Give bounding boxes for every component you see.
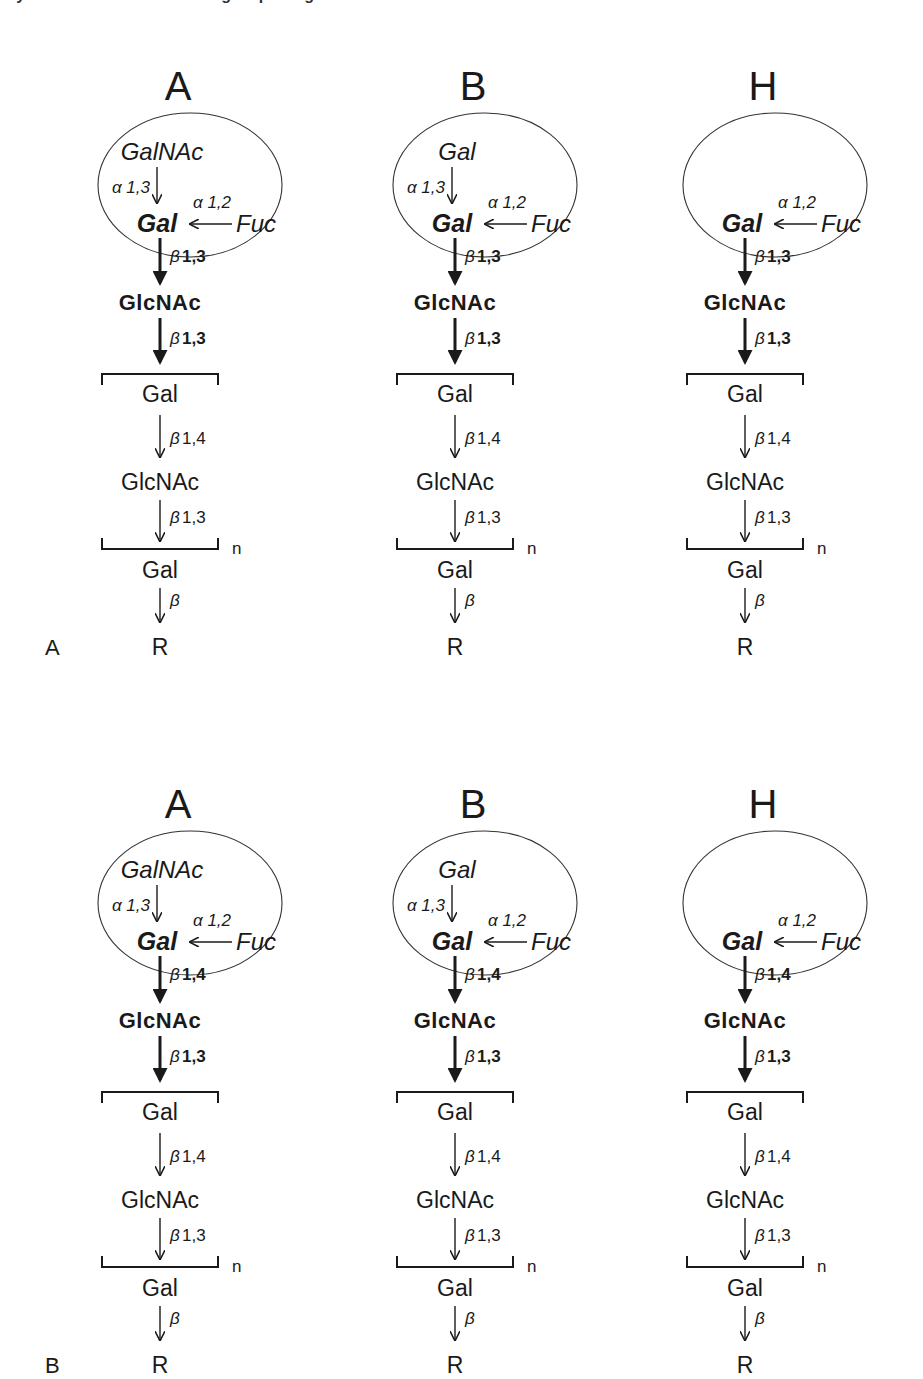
alpha-1-2-label: α 1,2 [488, 911, 527, 930]
reducing-gal: Gal [727, 557, 763, 583]
alpha-1-3-label: α 1,3 [112, 896, 151, 915]
terminal-sugar: Gal [438, 138, 476, 165]
repeat-gal: Gal [142, 381, 178, 407]
glcnac-bold: GlcNAc [704, 290, 786, 315]
aglycone-r: R [737, 634, 754, 660]
structure-a: AGalNAcα 1,3GalFucα 1,2β1,4GlcNAcβ1,3Gal… [98, 782, 282, 1378]
repeat-gal-position: 1,4 [182, 1147, 206, 1166]
repeat-gal-position: 1,4 [182, 429, 206, 448]
core-linkage-position: 1,3 [182, 247, 206, 266]
repeat-gal-beta: β [464, 1147, 475, 1166]
blood-group-header: B [460, 64, 487, 108]
structure-h: HGalFucα 1,2β1,4GlcNAcβ1,3Galβ1,4GlcNAcβ… [683, 782, 867, 1378]
repeat-count-n: n [232, 539, 241, 558]
repeat-glcnac-position: 1,3 [477, 508, 501, 527]
repeat-glcnac: GlcNAc [121, 469, 199, 495]
reducing-gal: Gal [142, 1275, 178, 1301]
alpha-1-3-label: α 1,3 [407, 178, 446, 197]
panel-label: B [45, 1353, 60, 1378]
core-gal: Gal [432, 927, 473, 955]
core-linkage-beta: β [754, 965, 765, 984]
repeat-glcnac-beta: β [754, 1226, 765, 1245]
glcnac-linkage-position: 1,3 [182, 329, 206, 348]
structure-h: HGalFucα 1,2β1,3GlcNAcβ1,3Galβ1,4GlcNAcβ… [683, 64, 867, 660]
repeat-glcnac-position: 1,3 [767, 508, 791, 527]
fucose: Fuc [821, 210, 861, 237]
repeat-count-n: n [817, 1257, 826, 1276]
repeat-gal-position: 1,4 [767, 429, 791, 448]
aglycone-r: R [447, 1352, 464, 1378]
glcnac-bold: GlcNAc [704, 1008, 786, 1033]
repeat-glcnac-position: 1,3 [182, 1226, 206, 1245]
repeat-gal-position: 1,4 [477, 429, 501, 448]
core-gal: Gal [137, 209, 178, 237]
repeat-glcnac-beta: β [169, 508, 180, 527]
core-linkage-position: 1,4 [767, 965, 791, 984]
core-linkage-position: 1,3 [477, 247, 501, 266]
aglycone-r: R [152, 634, 169, 660]
glcnac-linkage-beta: β [464, 1047, 475, 1066]
repeat-glcnac: GlcNAc [706, 469, 784, 495]
alpha-1-3-label: α 1,3 [407, 896, 446, 915]
aglycone-r: R [152, 1352, 169, 1378]
core-linkage-beta: β [464, 965, 475, 984]
panel-label: A [45, 635, 60, 660]
terminal-sugar: Gal [438, 856, 476, 883]
repeat-glcnac-beta: β [464, 1226, 475, 1245]
core-gal: Gal [722, 927, 763, 955]
reducing-gal: Gal [727, 1275, 763, 1301]
glcnac-bold: GlcNAc [414, 290, 496, 315]
blood-group-header: A [165, 64, 192, 108]
core-gal: Gal [137, 927, 178, 955]
repeat-count-n: n [232, 1257, 241, 1276]
repeat-gal: Gal [727, 1099, 763, 1125]
repeat-glcnac: GlcNAc [416, 469, 494, 495]
aglycone-linkage-beta: β [169, 1309, 180, 1328]
structure-b: BGalα 1,3GalFucα 1,2β1,3GlcNAcβ1,3Galβ1,… [393, 64, 577, 660]
alpha-1-3-label: α 1,3 [112, 178, 151, 197]
reducing-gal: Gal [437, 557, 473, 583]
fucose: Fuc [821, 928, 861, 955]
aglycone-linkage-beta: β [464, 591, 475, 610]
glcnac-linkage-position: 1,3 [182, 1047, 206, 1066]
glcnac-linkage-beta: β [169, 329, 180, 348]
repeat-glcnac: GlcNAc [416, 1187, 494, 1213]
aglycone-r: R [447, 634, 464, 660]
glcnac-linkage-position: 1,3 [477, 1047, 501, 1066]
glcnac-linkage-position: 1,3 [767, 1047, 791, 1066]
core-linkage-beta: β [169, 247, 180, 266]
alpha-1-2-label: α 1,2 [778, 911, 817, 930]
glcnac-bold: GlcNAc [119, 290, 201, 315]
glcnac-bold: GlcNAc [414, 1008, 496, 1033]
repeat-glcnac-position: 1,3 [477, 1226, 501, 1245]
repeat-gal-beta: β [754, 1147, 765, 1166]
reducing-gal: Gal [142, 557, 178, 583]
repeat-gal-beta: β [464, 429, 475, 448]
aglycone-linkage-beta: β [754, 591, 765, 610]
repeat-glcnac-position: 1,3 [767, 1226, 791, 1245]
aglycone-linkage-beta: β [754, 1309, 765, 1328]
core-linkage-position: 1,3 [767, 247, 791, 266]
aglycone-r: R [737, 1352, 754, 1378]
core-linkage-beta: β [464, 247, 475, 266]
core-gal: Gal [432, 209, 473, 237]
repeat-gal-position: 1,4 [477, 1147, 501, 1166]
repeat-count-n: n [527, 1257, 536, 1276]
repeat-glcnac: GlcNAc [706, 1187, 784, 1213]
structure-b: BGalα 1,3GalFucα 1,2β1,4GlcNAcβ1,3Galβ1,… [393, 782, 577, 1378]
fucose: Fuc [236, 928, 276, 955]
glcnac-linkage-beta: β [169, 1047, 180, 1066]
repeat-glcnac: GlcNAc [121, 1187, 199, 1213]
repeat-glcnac-position: 1,3 [182, 508, 206, 527]
repeat-gal-beta: β [169, 1147, 180, 1166]
blood-group-header: H [749, 64, 778, 108]
core-linkage-beta: β [754, 247, 765, 266]
glcnac-linkage-beta: β [754, 1047, 765, 1066]
blood-group-header: H [749, 782, 778, 826]
repeat-gal: Gal [727, 381, 763, 407]
core-linkage-beta: β [169, 965, 180, 984]
alpha-1-2-label: α 1,2 [193, 193, 232, 212]
repeat-count-n: n [527, 539, 536, 558]
glcnac-bold: GlcNAc [119, 1008, 201, 1033]
glcnac-linkage-beta: β [464, 329, 475, 348]
